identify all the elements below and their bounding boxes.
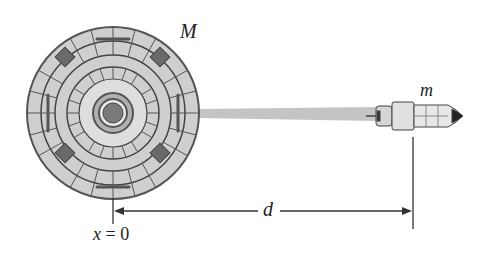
exhaust-trail <box>198 107 378 121</box>
planet <box>27 27 199 199</box>
rocket <box>366 102 463 130</box>
rocket-mass-label: m <box>420 80 433 101</box>
origin-label: x = 0 <box>93 224 129 245</box>
planet-mass-label: M <box>180 20 197 43</box>
distance-label: d <box>263 198 273 221</box>
diagram <box>0 0 486 255</box>
